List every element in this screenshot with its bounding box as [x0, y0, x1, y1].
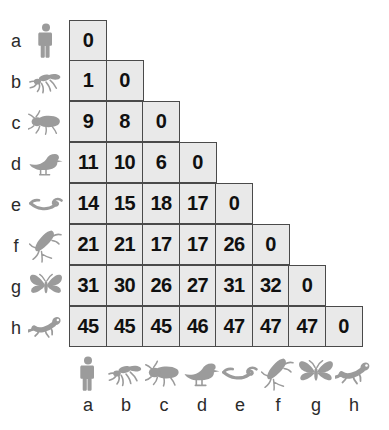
matrix-cell: 47 [252, 306, 290, 347]
column-letter: g [297, 396, 335, 414]
matrix-cell: 0 [215, 183, 253, 224]
matrix-cell: 17 [142, 224, 180, 265]
matrix-cell: 9 [69, 101, 107, 142]
row-letter: b [4, 73, 28, 91]
row-label-d: d [4, 143, 67, 184]
matrix-row: 454545464747470 [69, 307, 363, 348]
beetle-icon [28, 104, 64, 142]
matrix-cell: 0 [252, 224, 290, 265]
newt-icon [335, 352, 373, 396]
dragonfly-icon [28, 227, 64, 265]
column-letter-axis: abcdefgh [69, 396, 373, 414]
matrix-cell: 26 [142, 265, 180, 306]
column-letter: e [221, 396, 259, 414]
row-label-f: f [4, 225, 67, 266]
column-letter: b [107, 396, 145, 414]
human-icon [28, 22, 64, 60]
matrix-row: 980 [69, 102, 363, 143]
matrix-cell: 31 [69, 265, 107, 306]
matrix-cell: 26 [215, 224, 253, 265]
matrix-cell: 0 [288, 265, 326, 306]
row-letter: f [4, 237, 28, 255]
matrix-cell: 0 [179, 142, 217, 183]
matrix-cell: 21 [106, 224, 144, 265]
row-letter: d [4, 155, 28, 173]
matrix-cell: 32 [252, 265, 290, 306]
worm-icon [28, 186, 64, 224]
row-letter: h [4, 319, 28, 337]
matrix-row: 21211717260 [69, 225, 363, 266]
worm-icon [221, 352, 259, 396]
matrix-cell: 1 [69, 60, 107, 101]
duck-icon [28, 145, 64, 183]
matrix-cell: 30 [106, 265, 144, 306]
duck-icon [183, 352, 221, 396]
matrix-cell: 45 [69, 306, 107, 347]
matrix-cell: 27 [179, 265, 217, 306]
matrix-row: 3130262731320 [69, 266, 363, 307]
column-icon-axis [69, 352, 373, 396]
row-label-c: c [4, 102, 67, 143]
matrix-grid: 0109801110601415181702121171726031302627… [69, 20, 363, 348]
fly-icon [107, 352, 145, 396]
matrix-cell: 31 [215, 265, 253, 306]
distance-matrix-figure: abcdefgh 0109801110601415181702121171726… [0, 0, 389, 430]
row-letter: e [4, 196, 28, 214]
dragonfly-icon [259, 352, 297, 396]
human-icon [69, 352, 107, 396]
butterfly-icon [297, 352, 335, 396]
row-label-b: b [4, 61, 67, 102]
matrix-cell: 46 [179, 306, 217, 347]
beetle-icon [145, 352, 183, 396]
matrix-cell: 17 [179, 224, 217, 265]
matrix-cell: 18 [142, 183, 180, 224]
matrix-row: 111060 [69, 143, 363, 184]
newt-icon [28, 309, 64, 347]
matrix-row: 141518170 [69, 184, 363, 225]
matrix-cell: 17 [179, 183, 217, 224]
column-letter: c [145, 396, 183, 414]
column-letter: a [69, 396, 107, 414]
row-label-e: e [4, 184, 67, 225]
column-letter: f [259, 396, 297, 414]
matrix-cell: 0 [69, 20, 107, 61]
matrix-cell: 45 [106, 306, 144, 347]
matrix-cell: 10 [106, 142, 144, 183]
matrix-cell: 47 [288, 306, 326, 347]
row-label-g: g [4, 266, 67, 307]
row-letter: g [4, 278, 28, 296]
matrix-cell: 45 [142, 306, 180, 347]
row-letter: c [4, 114, 28, 132]
matrix-cell: 6 [142, 142, 180, 183]
column-letter: h [335, 396, 373, 414]
matrix-cell: 21 [69, 224, 107, 265]
matrix-cell: 47 [215, 306, 253, 347]
row-label-a: a [4, 20, 67, 61]
row-label-h: h [4, 307, 67, 348]
butterfly-icon [28, 268, 64, 306]
row-letter: a [4, 32, 28, 50]
matrix-cell: 11 [69, 142, 107, 183]
matrix-cell: 14 [69, 183, 107, 224]
matrix-cell: 15 [106, 183, 144, 224]
matrix-cell: 0 [106, 60, 144, 101]
matrix-cell: 8 [106, 101, 144, 142]
fly-icon [28, 63, 64, 101]
matrix-cell: 0 [325, 306, 363, 347]
matrix-cell: 0 [142, 101, 180, 142]
matrix-row: 10 [69, 61, 363, 102]
matrix-row: 0 [69, 20, 363, 61]
column-letter: d [183, 396, 221, 414]
